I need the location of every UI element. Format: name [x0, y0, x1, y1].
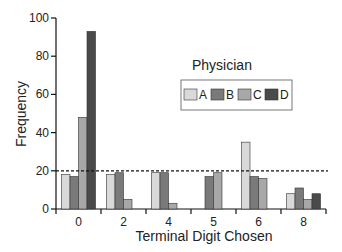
bar-c [259, 178, 268, 209]
bar-d [312, 194, 321, 209]
x-tick-label: 5 [210, 215, 217, 229]
x-tick-label: 0 [75, 215, 82, 229]
x-axis-label: Terminal Digit Chosen [136, 228, 273, 244]
y-tick-label: 80 [36, 49, 50, 63]
bars [62, 31, 321, 209]
x-tick-label: 6 [255, 215, 262, 229]
bar-a [242, 142, 251, 209]
x-tick-label: 2 [120, 215, 127, 229]
legend-label-c: C [253, 88, 262, 102]
legend-swatch-a [184, 89, 197, 100]
y-tick-label: 40 [36, 126, 50, 140]
y-tick-label: 0 [42, 202, 49, 216]
bar-c [169, 203, 178, 209]
legend-label-a: A [199, 88, 207, 102]
bar-c [304, 199, 313, 209]
x-tick-label: 4 [165, 215, 172, 229]
legend-label-d: D [280, 88, 289, 102]
bar-a [62, 175, 71, 209]
legend: Physician ABCD [181, 57, 292, 110]
bar-a [107, 175, 116, 209]
bar-b [70, 177, 79, 209]
bar-b [115, 173, 124, 209]
bar-chart: 020406080100024568 Frequency Terminal Di… [0, 0, 342, 252]
legend-title: Physician [192, 57, 252, 73]
bar-b [250, 177, 259, 209]
y-tick-label: 20 [36, 164, 50, 178]
legend-swatch-c [238, 89, 251, 100]
legend-swatch-b [211, 89, 224, 100]
x-tick-label: 8 [300, 215, 307, 229]
legend-swatch-d [265, 89, 278, 100]
bar-b [160, 173, 169, 209]
bar-a [287, 194, 296, 209]
bar-d [87, 31, 96, 209]
y-axis-label: Frequency [13, 81, 29, 147]
bar-b [205, 177, 214, 209]
bar-b [295, 188, 304, 209]
legend-label-b: B [226, 88, 234, 102]
bar-c [124, 199, 133, 209]
y-tick-label: 60 [36, 87, 50, 101]
bar-c [79, 117, 88, 209]
bar-c [214, 173, 223, 209]
bar-a [152, 173, 161, 209]
y-tick-label: 100 [29, 11, 49, 25]
